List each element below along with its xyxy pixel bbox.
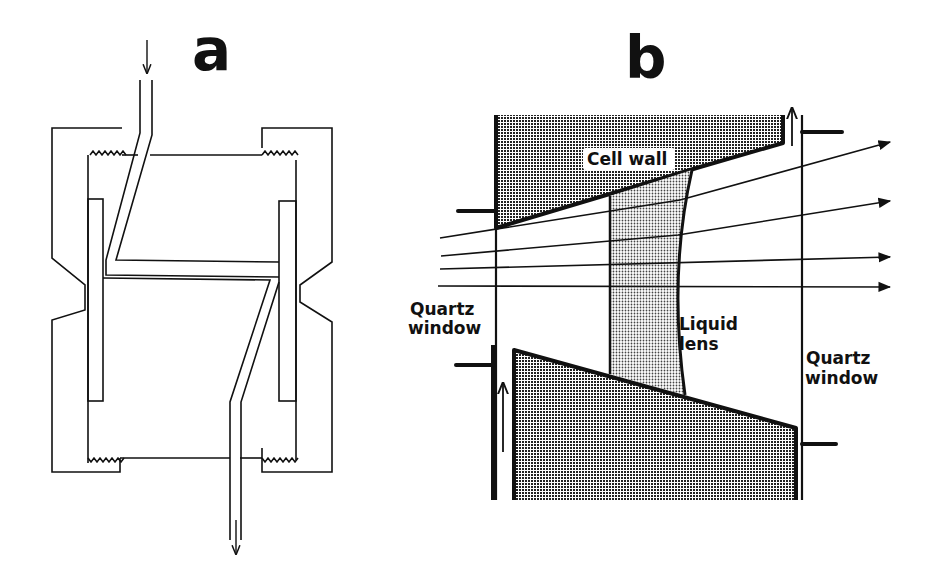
figure-canvas: a <box>0 0 930 580</box>
channel-wall-2 <box>103 278 270 540</box>
panel-b: b Cell wall Quartz <box>408 24 890 500</box>
quartz-window-left-label-1: Quartz <box>410 299 475 319</box>
quartz-window-left-label-2: window <box>408 318 481 338</box>
panel-a: a <box>52 16 332 554</box>
liquid-lens-label-1: Liquid <box>679 314 738 334</box>
liquid-lens-label-2: lens <box>679 334 719 354</box>
panel-a-body <box>52 80 332 540</box>
channel-wall-1 <box>106 80 279 277</box>
quartz-window-right-label-2: window <box>805 368 878 388</box>
window-left-a <box>88 199 103 401</box>
panel-a-letter: a <box>192 16 231 84</box>
quartz-window-right-label-1: Quartz <box>806 348 871 368</box>
panel-b-letter: b <box>625 24 667 92</box>
cell-wall-label: Cell wall <box>587 149 667 169</box>
window-right-a <box>279 201 296 401</box>
channel-wall-3 <box>241 282 279 540</box>
